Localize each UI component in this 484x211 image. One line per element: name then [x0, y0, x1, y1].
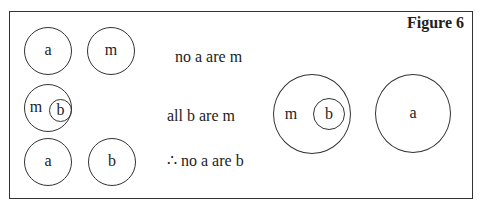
circle-b-row3-label: b — [108, 153, 116, 169]
circle-m-row2-label: m — [30, 99, 42, 115]
circle-m-row1-label: m — [105, 42, 117, 58]
circle-b-row2-label: b — [57, 102, 65, 118]
premise-1: no a are m — [175, 49, 242, 65]
figure-title: Figure 6 — [407, 14, 464, 32]
conclusion: ∴ no a are b — [167, 153, 244, 169]
circle-a-row1-label: a — [44, 42, 51, 58]
circle-m-combined-label: m — [285, 106, 297, 122]
premise-2: all b are m — [167, 108, 235, 124]
circle-a-row3-label: a — [44, 153, 51, 169]
circle-a-combined-label: a — [409, 105, 416, 121]
circle-b-combined-label: b — [325, 106, 333, 122]
